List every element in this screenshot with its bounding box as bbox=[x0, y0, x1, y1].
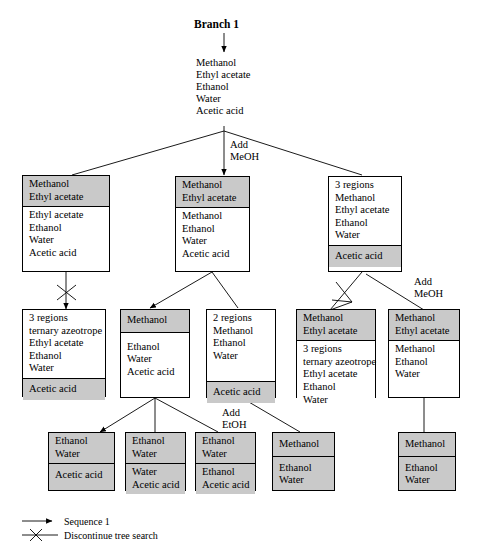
node-header: Ethanol Water bbox=[126, 433, 185, 463]
root-feed-item: Acetic acid bbox=[196, 105, 251, 117]
node-header: Ethanol Water bbox=[49, 433, 114, 463]
node-line: Water bbox=[335, 229, 396, 242]
node-line: Ethyl acetate bbox=[29, 209, 104, 222]
row4-node-3[interactable]: Ethanol Water Ethanol Acetic acid bbox=[195, 432, 256, 491]
node-line: Ethyl acetate bbox=[29, 337, 100, 350]
node-header: Methanol Ethyl acetate bbox=[389, 310, 459, 340]
root-feed-item: Ethanol bbox=[196, 81, 251, 93]
node-line: Methanol bbox=[29, 178, 104, 191]
node-line: Methanol bbox=[213, 325, 270, 338]
node-line: Acetic acid bbox=[202, 479, 250, 492]
node-header: 3 regions Methanol Ethyl acetate Ethanol… bbox=[329, 177, 401, 245]
node-line: Methanol bbox=[182, 179, 244, 192]
edge-label-line1: Add bbox=[230, 139, 259, 151]
node-line: Ethanol bbox=[182, 223, 244, 236]
root-feed-item: Water bbox=[196, 93, 251, 105]
node-line: 3 regions bbox=[335, 179, 396, 192]
node-header: 3 regions ternary azeotrope Ethyl acetat… bbox=[23, 310, 105, 378]
node-line: Water bbox=[29, 234, 104, 247]
node-body: Ethanol Acetic acid bbox=[196, 463, 255, 494]
node-body: Ethanol Water bbox=[399, 456, 455, 490]
node-line: Acetic acid bbox=[213, 386, 270, 399]
row4-node-5[interactable]: Methanol Ethanol Water bbox=[398, 432, 456, 491]
node-line: Methanol bbox=[395, 343, 454, 356]
row3-node-3[interactable]: 2 regions Methanol Ethanol Water Acetic … bbox=[206, 309, 276, 398]
node-line: Acetic acid bbox=[132, 479, 180, 492]
node-header: 2 regions Methanol Ethanol Water bbox=[207, 310, 275, 365]
node-line: Ethanol bbox=[335, 217, 396, 230]
node-body: Acetic acid bbox=[23, 378, 105, 400]
node-line: Water bbox=[213, 350, 270, 363]
node-line: Acetic acid bbox=[182, 248, 244, 261]
node-line: Ethanol bbox=[213, 337, 270, 350]
edge-label-add-meoh-top: Add MeOH bbox=[230, 139, 259, 163]
node-header: Methanol Ethyl acetate bbox=[176, 177, 249, 207]
diagram-canvas: Branch 1 Methanol Ethyl acetate Ethanol … bbox=[0, 0, 481, 549]
node-line: Ethanol bbox=[29, 350, 100, 363]
edge-label-add-meoh-right: Add MeOH bbox=[414, 276, 443, 300]
node-line: Acetic acid bbox=[29, 247, 104, 260]
node-line: ternary azeotrope bbox=[303, 356, 370, 369]
row2-node-right[interactable]: 3 regions Methanol Ethyl acetate Ethanol… bbox=[328, 176, 402, 272]
legend-sequence-label: Sequence 1 bbox=[64, 515, 110, 528]
node-line: Water bbox=[29, 362, 100, 375]
node-body: Ethyl acetate Ethanol Water Acetic acid bbox=[23, 206, 109, 262]
node-line: 3 regions bbox=[29, 312, 100, 325]
node-body: Acetic acid bbox=[207, 381, 275, 403]
node-header: Methanol bbox=[121, 310, 189, 332]
node-line: Acetic acid bbox=[335, 250, 396, 263]
row3-node-2[interactable]: Methanol Ethanol Water Acetic acid bbox=[120, 309, 190, 398]
node-body: Acetic acid bbox=[49, 463, 114, 485]
node-line: Acetic acid bbox=[127, 366, 184, 379]
node-line: Ethyl acetate bbox=[303, 325, 370, 338]
node-body: 3 regions ternary azeotrope Ethyl acetat… bbox=[297, 340, 375, 409]
row3-node-5[interactable]: Methanol Ethyl acetate Methanol Ethanol … bbox=[388, 309, 460, 398]
node-header: Ethanol Water bbox=[196, 433, 255, 463]
row2-node-center[interactable]: Methanol Ethyl acetate Methanol Ethanol … bbox=[175, 176, 250, 272]
node-header: Methanol bbox=[399, 433, 455, 456]
node-line: Water bbox=[132, 466, 180, 479]
node-header: Methanol Ethyl acetate bbox=[297, 310, 375, 340]
edge-label-add-etoh: Add EtOH bbox=[222, 407, 247, 431]
node-line: Water bbox=[182, 235, 244, 248]
node-line: Methanol bbox=[279, 438, 329, 451]
edge-label-line1: Add bbox=[414, 276, 443, 288]
node-line: Ethanol bbox=[127, 341, 184, 354]
row3-node-4[interactable]: Methanol Ethyl acetate 3 regions ternary… bbox=[296, 309, 376, 398]
row2-node-left[interactable]: Methanol Ethyl acetate Ethyl acetate Eth… bbox=[22, 175, 110, 272]
edge-label-line2: MeOH bbox=[230, 151, 259, 163]
row4-node-4[interactable]: Methanol Ethanol Water bbox=[272, 432, 335, 491]
node-line: Methanol bbox=[405, 438, 450, 451]
legend-discontinue-label: Discontinue tree search bbox=[64, 529, 158, 542]
node-line: Ethanol bbox=[279, 462, 329, 475]
node-line: Methanol bbox=[335, 192, 396, 205]
node-line: Ethyl acetate bbox=[395, 325, 454, 338]
node-line: Ethanol bbox=[303, 381, 370, 394]
node-line: Ethyl acetate bbox=[182, 192, 244, 205]
node-line: Ethyl acetate bbox=[303, 368, 370, 381]
node-line: ternary azeotrope bbox=[29, 325, 100, 338]
node-line: Water bbox=[132, 448, 180, 461]
node-header: Methanol Ethyl acetate bbox=[23, 176, 109, 206]
node-line: Ethanol bbox=[405, 462, 450, 475]
node-line: 2 regions bbox=[213, 312, 270, 325]
node-line: Methanol bbox=[127, 314, 184, 327]
node-line: Ethyl acetate bbox=[335, 204, 396, 217]
row3-node-1[interactable]: 3 regions ternary azeotrope Ethyl acetat… bbox=[22, 309, 106, 397]
edge-label-line1: Add bbox=[222, 407, 247, 419]
row4-node-1[interactable]: Ethanol Water Acetic acid bbox=[48, 432, 115, 491]
node-line: Water bbox=[395, 368, 454, 381]
node-line: Methanol bbox=[395, 312, 454, 325]
edge-label-line2: MeOH bbox=[414, 288, 443, 300]
diagram-title: Branch 1 bbox=[194, 18, 239, 30]
row4-node-2[interactable]: Ethanol Water Water Acetic acid bbox=[125, 432, 186, 491]
node-line: Acetic acid bbox=[55, 469, 109, 482]
node-body: Ethanol Water Acetic acid bbox=[121, 332, 189, 382]
root-feed-item: Methanol bbox=[196, 57, 251, 69]
node-line: Ethyl acetate bbox=[29, 191, 104, 204]
node-line: Methanol bbox=[182, 210, 244, 223]
node-body: Water Acetic acid bbox=[126, 463, 185, 494]
node-line: Water bbox=[127, 353, 184, 366]
node-line: Ethanol bbox=[202, 435, 250, 448]
node-line: Water bbox=[202, 448, 250, 461]
